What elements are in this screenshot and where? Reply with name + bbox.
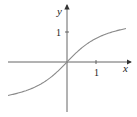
x-tick-label: 1 [94,67,99,78]
x-axis-label: x [122,62,128,74]
y-axis-label: y [56,5,62,17]
y-tick-label: 1 [56,27,61,38]
plot: 1 1 x y [0,0,137,117]
